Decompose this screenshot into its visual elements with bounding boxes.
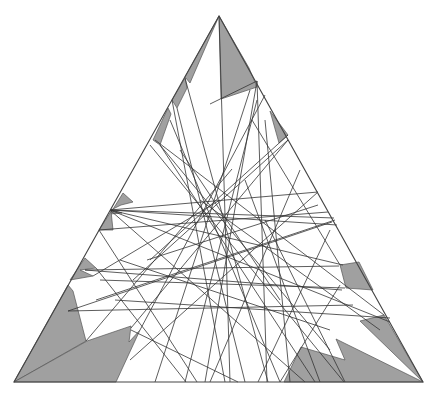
chord-line <box>96 220 335 300</box>
shaded-region <box>219 16 257 99</box>
shaded-region <box>70 258 96 280</box>
chord-line <box>150 145 344 382</box>
chord-line <box>120 260 330 330</box>
chord-line <box>185 78 268 382</box>
chord-line <box>131 330 238 382</box>
chord-line <box>180 150 280 300</box>
shaded-regions <box>14 16 423 382</box>
chord-line <box>172 100 225 382</box>
chord-line <box>133 140 288 280</box>
shaded-region <box>270 111 288 143</box>
chord-line <box>265 120 290 382</box>
shaded-region <box>153 108 171 145</box>
triangle-chord-diagram <box>0 0 437 398</box>
shaded-region <box>340 262 373 290</box>
diagram-svg <box>0 0 437 398</box>
chord-line <box>205 81 257 382</box>
shaded-region <box>172 78 187 108</box>
chord-line <box>177 108 245 382</box>
